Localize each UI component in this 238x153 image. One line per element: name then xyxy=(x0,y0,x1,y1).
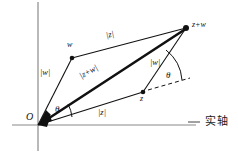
edge-label-magnitude-z-bottom: |z| xyxy=(98,108,106,117)
edge-label-magnitude-w-left: |w| xyxy=(40,68,50,77)
edge-origin-to-z xyxy=(38,92,143,125)
vector-z-plus-w-diagonal xyxy=(40,30,184,124)
origin-label: O xyxy=(26,112,33,122)
edge-label-magnitude-z-top: |z| xyxy=(105,30,114,40)
vertex-label-z: z xyxy=(140,95,143,103)
angle-label-theta-origin: θ xyxy=(55,105,59,114)
vertex-dot-z-plus-w xyxy=(183,25,189,31)
vertex-label-z-plus-w: z+w xyxy=(192,21,206,29)
angle-label-theta-at-z: θ xyxy=(166,71,170,80)
real-axis-label: 实轴 xyxy=(205,116,228,127)
vertex-label-w: w xyxy=(67,41,72,49)
edge-label-magnitude-w-right: |w| xyxy=(150,58,160,67)
complex-plane-figure: O w z z+w |w| |z| |z+w| |w| |z| θ θ 实轴 xyxy=(0,0,238,153)
vertex-dot-w xyxy=(70,56,75,61)
